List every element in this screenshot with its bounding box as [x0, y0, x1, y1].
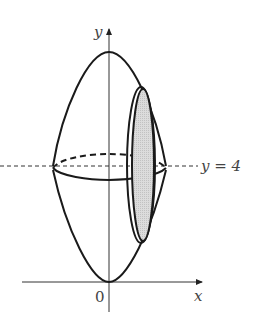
solid-of-revolution-diagram: y x 0 y = 4 [0, 0, 253, 325]
rotation-axis-label: y = 4 [200, 157, 241, 175]
x-axis-label: x [194, 287, 203, 305]
cross-section-slice [127, 87, 155, 243]
origin-label: 0 [95, 288, 105, 306]
y-axis-label: y [93, 23, 103, 41]
